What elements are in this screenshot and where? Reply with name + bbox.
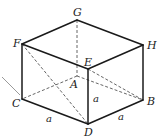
vertex-label-D: D — [83, 126, 93, 139]
length-label-ED: a — [93, 93, 99, 104]
edge-HE — [88, 45, 143, 69]
length-label-CD: a — [46, 113, 52, 124]
hidden-edge-AC — [22, 76, 77, 99]
edge-GH — [77, 20, 143, 45]
length-label-DB: a — [118, 111, 124, 122]
vertex-label-F: F — [12, 37, 21, 50]
hidden-edge-AB — [77, 76, 143, 100]
pointer-line — [2, 77, 20, 95]
prism-diagram: G F H E A C B D a a a — [0, 0, 160, 139]
vertex-label-H: H — [146, 39, 157, 52]
vertex-label-E: E — [83, 56, 92, 69]
vertex-label-C: C — [12, 97, 21, 110]
vertex-label-G: G — [73, 6, 82, 19]
vertex-label-A: A — [69, 78, 78, 91]
vertex-label-B: B — [146, 95, 155, 108]
edge-GF — [22, 20, 77, 44]
